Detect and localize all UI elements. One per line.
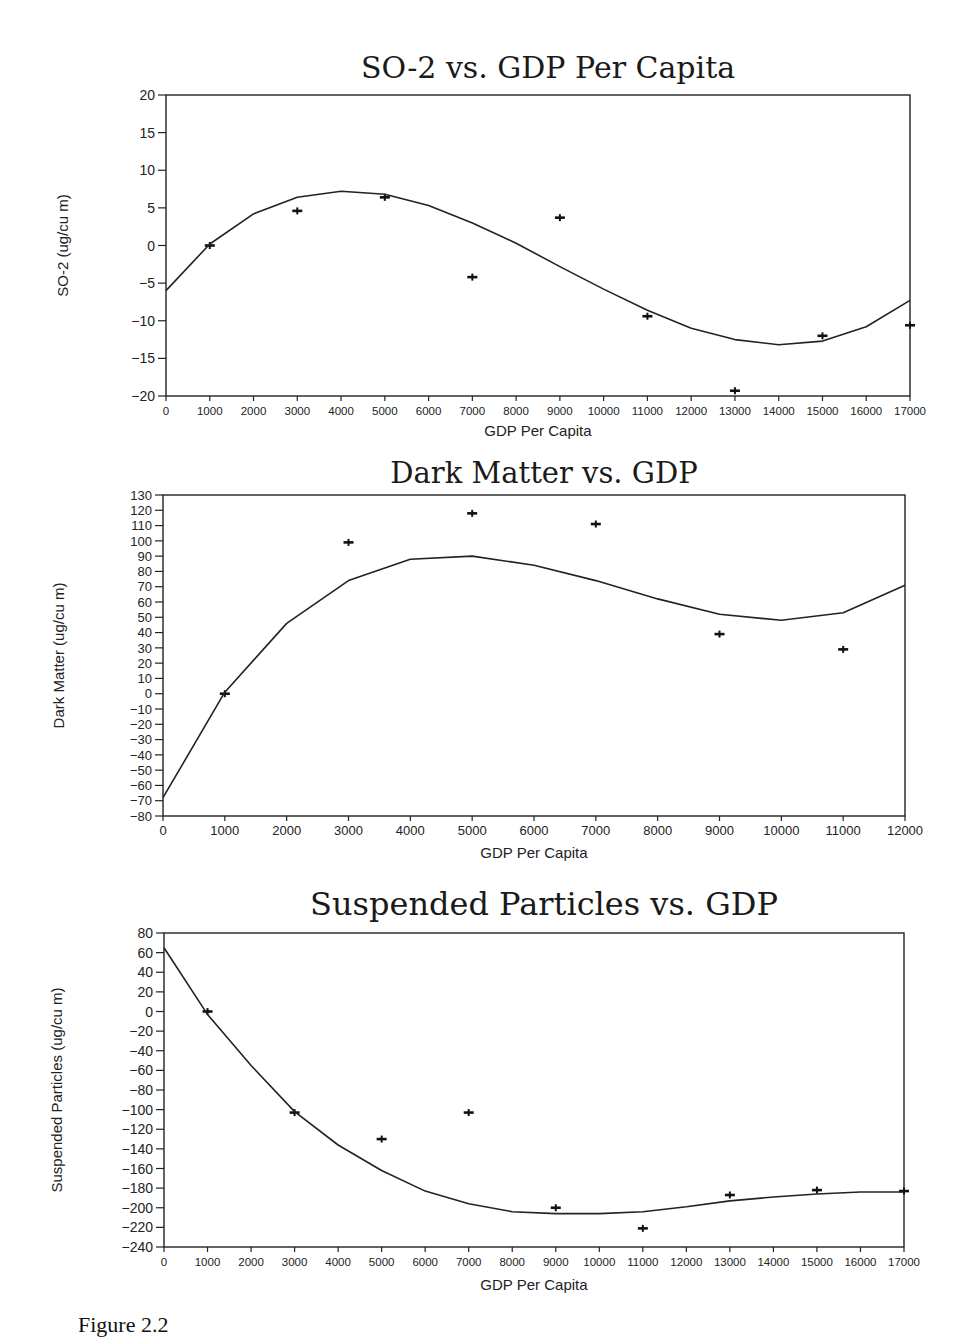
chart-3: Suspended Particles vs. GDP−240−220−200−… bbox=[48, 885, 920, 1293]
x-axis-label: GDP Per Capita bbox=[480, 844, 588, 861]
plot-frame bbox=[163, 495, 905, 816]
chart-title: Suspended Particles vs. GDP bbox=[310, 885, 778, 923]
plus-marker-icon bbox=[344, 539, 354, 546]
y-axis-ticks: −240−220−200−180−160−140−120−100−80−60−4… bbox=[121, 925, 164, 1255]
chart-1: SO-2 vs. GDP Per Capita−20−15−10−5051015… bbox=[54, 50, 926, 439]
y-tick-label: −140 bbox=[121, 1141, 153, 1157]
x-tick-label: 1000 bbox=[197, 405, 223, 417]
x-tick-label: 12000 bbox=[887, 823, 923, 838]
x-tick-label: 9000 bbox=[705, 823, 734, 838]
y-tick-label: −120 bbox=[121, 1121, 153, 1137]
y-tick-label: 20 bbox=[138, 656, 152, 671]
y-axis-ticks: −80−70−60−50−40−30−20−100102030405060708… bbox=[130, 488, 163, 824]
x-tick-label: 4000 bbox=[328, 405, 354, 417]
x-tick-label: 5000 bbox=[458, 823, 487, 838]
y-tick-label: −20 bbox=[129, 1023, 153, 1039]
y-tick-label: 40 bbox=[138, 625, 152, 640]
y-tick-label: 0 bbox=[145, 1004, 153, 1020]
x-tick-label: 3000 bbox=[334, 823, 363, 838]
x-tick-label: 16000 bbox=[844, 1256, 876, 1268]
x-tick-label: 4000 bbox=[396, 823, 425, 838]
y-tick-label: −60 bbox=[130, 778, 152, 793]
y-tick-label: 80 bbox=[138, 564, 152, 579]
x-tick-label: 3000 bbox=[284, 405, 310, 417]
y-tick-label: −15 bbox=[131, 350, 155, 366]
y-tick-label: 50 bbox=[138, 610, 152, 625]
y-tick-label: −50 bbox=[130, 763, 152, 778]
x-tick-label: 5000 bbox=[369, 1256, 395, 1268]
y-tick-label: 0 bbox=[145, 686, 152, 701]
y-axis-label: SO-2 (ug/cu m) bbox=[54, 194, 71, 297]
fitted-curve bbox=[163, 556, 905, 798]
y-axis-label: Suspended Particles (ug/cu m) bbox=[48, 987, 65, 1192]
plus-marker-icon bbox=[591, 521, 601, 528]
x-tick-label: 7000 bbox=[460, 405, 486, 417]
x-tick-label: 9000 bbox=[547, 405, 573, 417]
x-tick-label: 6000 bbox=[416, 405, 442, 417]
y-axis-ticks: −20−15−10−505101520 bbox=[131, 87, 166, 404]
plus-marker-icon bbox=[467, 510, 477, 517]
x-tick-label: 2000 bbox=[272, 823, 301, 838]
plus-marker-icon bbox=[464, 1109, 474, 1116]
y-tick-label: 80 bbox=[137, 925, 153, 941]
y-tick-label: 90 bbox=[138, 549, 152, 564]
x-tick-label: 9000 bbox=[543, 1256, 569, 1268]
figure-caption: Figure 2.2 bbox=[78, 1312, 168, 1338]
y-tick-label: 0 bbox=[147, 238, 155, 254]
x-tick-label: 7000 bbox=[581, 823, 610, 838]
y-tick-label: 60 bbox=[138, 595, 152, 610]
y-tick-label: −20 bbox=[131, 388, 155, 404]
chart-title: Dark Matter vs. GDP bbox=[390, 456, 697, 490]
x-tick-label: 17000 bbox=[888, 1256, 920, 1268]
plus-marker-icon bbox=[467, 274, 477, 281]
x-tick-label: 11000 bbox=[627, 1256, 658, 1268]
x-tick-label: 2000 bbox=[241, 405, 267, 417]
x-tick-label: 14000 bbox=[763, 405, 795, 417]
y-tick-label: −40 bbox=[130, 748, 152, 763]
x-tick-label: 6000 bbox=[412, 1256, 438, 1268]
x-tick-label: 11000 bbox=[632, 405, 663, 417]
y-tick-label: 100 bbox=[130, 534, 152, 549]
x-axis-label: GDP Per Capita bbox=[484, 422, 592, 439]
x-tick-label: 13000 bbox=[714, 1256, 746, 1268]
y-tick-label: −10 bbox=[130, 702, 152, 717]
y-tick-label: 70 bbox=[138, 579, 152, 594]
y-tick-label: 10 bbox=[138, 671, 152, 686]
y-tick-label: 20 bbox=[139, 87, 155, 103]
x-tick-label: 7000 bbox=[456, 1256, 482, 1268]
x-tick-label: 10000 bbox=[763, 823, 799, 838]
y-tick-label: 60 bbox=[137, 945, 153, 961]
chart-2: Dark Matter vs. GDP−80−70−60−50−40−30−20… bbox=[50, 456, 923, 861]
y-tick-label: −5 bbox=[139, 275, 155, 291]
y-tick-label: −200 bbox=[121, 1200, 153, 1216]
y-tick-label: −180 bbox=[121, 1180, 153, 1196]
y-tick-label: 40 bbox=[137, 964, 153, 980]
x-tick-label: 0 bbox=[161, 1256, 167, 1268]
y-tick-label: 10 bbox=[139, 162, 155, 178]
y-tick-label: 120 bbox=[130, 503, 152, 518]
x-tick-label: 16000 bbox=[850, 405, 882, 417]
y-tick-label: −80 bbox=[130, 809, 152, 824]
y-tick-label: 5 bbox=[147, 200, 155, 216]
x-tick-label: 14000 bbox=[757, 1256, 789, 1268]
y-tick-label: −160 bbox=[121, 1161, 153, 1177]
plus-marker-icon bbox=[292, 207, 302, 214]
plus-marker-icon bbox=[905, 322, 915, 329]
x-tick-label: 15000 bbox=[806, 405, 838, 417]
y-tick-label: −100 bbox=[121, 1102, 153, 1118]
x-tick-label: 0 bbox=[159, 823, 166, 838]
plus-marker-icon bbox=[725, 1191, 735, 1198]
x-tick-label: 8000 bbox=[643, 823, 672, 838]
plus-marker-icon bbox=[638, 1225, 648, 1232]
x-tick-label: 2000 bbox=[238, 1256, 264, 1268]
x-tick-label: 15000 bbox=[801, 1256, 833, 1268]
x-tick-label: 17000 bbox=[894, 405, 926, 417]
plus-marker-icon bbox=[730, 387, 740, 394]
y-tick-label: −20 bbox=[130, 717, 152, 732]
y-tick-label: 15 bbox=[139, 125, 155, 141]
x-axis-ticks: 0100020003000400050006000700080009000100… bbox=[161, 1247, 920, 1268]
x-tick-label: 1000 bbox=[195, 1256, 221, 1268]
x-tick-label: 3000 bbox=[282, 1256, 308, 1268]
plus-marker-icon bbox=[817, 332, 827, 339]
